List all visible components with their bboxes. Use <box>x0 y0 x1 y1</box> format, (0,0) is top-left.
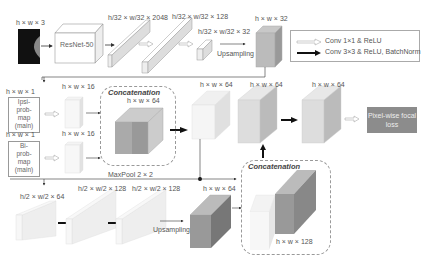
upsampling-bottom-label: Upsampling <box>153 226 190 233</box>
b1-label: h/2 × w/2 × 64 <box>20 193 64 200</box>
ipsi-line: prob- <box>9 106 39 114</box>
bi-feat-label: h × w × 16 <box>62 130 95 137</box>
hollow-arrow-icon <box>297 39 321 45</box>
bi-line: (main) <box>9 166 39 174</box>
focal-loss-box: Pixel-wise focal loss <box>367 107 417 133</box>
side-feature-2 <box>65 142 83 173</box>
focal-loss-label: Pixel-wise focal loss <box>367 111 417 129</box>
ipsi-line: (main) <box>9 122 39 130</box>
bottom-block-3 <box>116 190 166 244</box>
b3-label: h/2 × w/2 × 128 <box>132 185 180 192</box>
bi-dim-label: h × w × 1 <box>6 131 35 138</box>
mid-block-3 <box>302 86 341 143</box>
mid2-label: h × w × 64 <box>250 81 283 88</box>
solid-arrow-icon <box>297 50 321 56</box>
input-dim-label: h × w × 3 <box>16 19 45 26</box>
b2-label: h/2 × w/2 × 128 <box>78 185 126 192</box>
legend-conv1x1: Conv 1×1 & ReLU <box>325 37 382 44</box>
ipsi-line: map <box>9 114 39 122</box>
upsampled-32 <box>256 26 282 67</box>
ipsi-line: Ipsi- <box>9 98 39 106</box>
side-feature-1 <box>65 97 83 128</box>
mid-block-2 <box>238 86 277 143</box>
feat2048-label: h/32 × w/32 × 2048 <box>108 14 168 21</box>
ipsi-dim-label: h × w × 1 <box>6 88 35 95</box>
bi-line: prob- <box>9 150 39 158</box>
upsampling-top-label: Upsampling <box>217 50 254 57</box>
concat2-title: Concatenation <box>248 162 300 171</box>
ipsi-prob-map-box: Ipsi- prob- map (main) <box>8 97 40 133</box>
resnet-label: ResNet-50 <box>60 41 93 48</box>
bi-line: map <box>9 158 39 166</box>
concat1-dim: h × w × 64 <box>127 97 160 104</box>
ipsi-feat-label: h × w × 16 <box>62 83 95 90</box>
legend: Conv 1×1 & ReLU Conv 3×3 & ReLU, BatchNo… <box>290 30 420 62</box>
bottom-up-cube <box>190 195 231 248</box>
feat32-label: h/32 × w/32 × 32 <box>198 28 250 35</box>
bottom-block-2 <box>66 190 116 244</box>
concat2-dim: h × w × 128 <box>276 238 313 245</box>
feature-32 <box>197 40 212 60</box>
bottom-up-label: h × w × 64 <box>203 185 236 192</box>
mid1-label: h × w × 64 <box>200 81 233 88</box>
mid3-label: h × w × 64 <box>312 81 345 88</box>
upsampled32-label: h × w × 32 <box>255 15 288 22</box>
maxpool-label: MaxPool 2 × 2 <box>108 171 153 178</box>
mid-block-1 <box>192 91 230 139</box>
bi-line: Bi- <box>9 142 39 150</box>
feat128-label: h/32 × w/32 × 128 <box>172 13 228 20</box>
input-image <box>18 29 40 64</box>
legend-conv3x3: Conv 3×3 & ReLU, BatchNorm <box>325 48 421 55</box>
concat1-title: Concatenation <box>108 88 160 97</box>
bi-prob-map-box: Bi- prob- map (main) <box>8 141 40 177</box>
bottom-block-1 <box>16 201 56 240</box>
